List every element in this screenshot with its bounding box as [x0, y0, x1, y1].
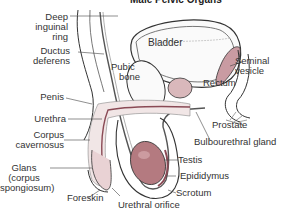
abdominal-wall-outline [77, 10, 93, 140]
glans-shape [92, 150, 112, 190]
label-ductus-deferens: Ductus deferens [26, 46, 70, 66]
label-rectum: Rectum [203, 78, 236, 88]
label-scrotum: Scrotum [176, 188, 211, 198]
label-glans: Glans (corpus spongiosum) [0, 163, 48, 193]
label-urethra: Urethra [24, 114, 66, 124]
label-seminal-vesicle: Seminal vesicle [235, 56, 269, 76]
label-urethral-orifice: Urethral orifice [118, 200, 180, 210]
label-deep-inguinal-ring: Deep inguinal ring [26, 12, 68, 42]
label-bulbourethral-gland: Bulbourethral gland [194, 137, 276, 147]
label-pubic-bone: Pubic bone [111, 62, 140, 82]
label-bladder: Bladder [148, 38, 182, 48]
male-pelvic-organs-diagram: Male Pelvic Organs [0, 0, 300, 211]
label-corpus-cavernosus: Corpus cavernosus [14, 130, 64, 150]
label-penis: Penis [26, 92, 64, 102]
label-epididymus: Epididymus [180, 171, 229, 181]
label-prostate: Prostate [212, 120, 247, 130]
label-foreskin: Foreskin [67, 193, 103, 203]
label-testis: Testis [178, 155, 202, 165]
prostate-shape [168, 78, 192, 98]
